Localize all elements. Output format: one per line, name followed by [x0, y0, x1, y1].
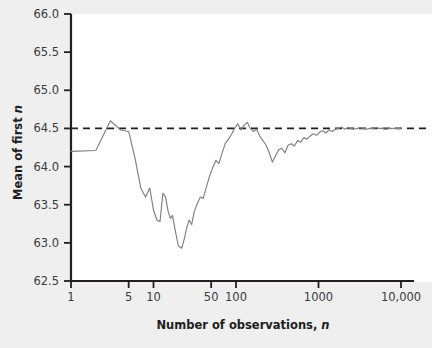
y-axis-tick-label: 64.0 [33, 160, 59, 174]
x-axis-title-italic: n [321, 318, 329, 332]
y-axis-tick-labels: 62.563.063.564.064.565.065.566.0 [33, 7, 59, 288]
y-axis-title: Mean of first n [11, 105, 25, 200]
x-axis-tick-label: 50 [204, 290, 219, 304]
y-axis-title-italic: n [11, 105, 25, 113]
line-chart: 62.563.063.564.064.565.065.566.0 1510501… [0, 0, 432, 348]
x-axis-tick-label: 100 [225, 290, 247, 304]
x-axis-tick-label: 10 [146, 290, 161, 304]
x-axis-tick-label: 5 [125, 290, 132, 304]
y-axis-tick-label: 63.0 [33, 236, 59, 250]
y-axis-tick-label: 65.0 [33, 83, 59, 97]
x-axis-title-main: Number of observations, [156, 318, 321, 332]
y-axis-title-main: Mean of first [11, 113, 25, 200]
x-axis-tick-labels: 151050100100010,000 [67, 290, 421, 304]
figure-container: 62.563.063.564.064.565.065.566.0 1510501… [0, 0, 432, 348]
x-axis-title: Number of observations, n [156, 318, 329, 332]
y-axis-tick-label: 62.5 [33, 274, 59, 288]
x-axis-tick-label: 10,000 [381, 290, 421, 304]
y-axis-tick-label: 66.0 [33, 7, 59, 21]
running-mean-series [71, 121, 401, 248]
y-axis-tick-label: 65.5 [33, 45, 59, 59]
y-axis-tick-label: 63.5 [33, 198, 59, 212]
x-axis-tick-label: 1000 [304, 290, 333, 304]
x-axis-tick-label: 1 [67, 290, 74, 304]
y-axis-tick-label: 64.5 [33, 121, 59, 135]
